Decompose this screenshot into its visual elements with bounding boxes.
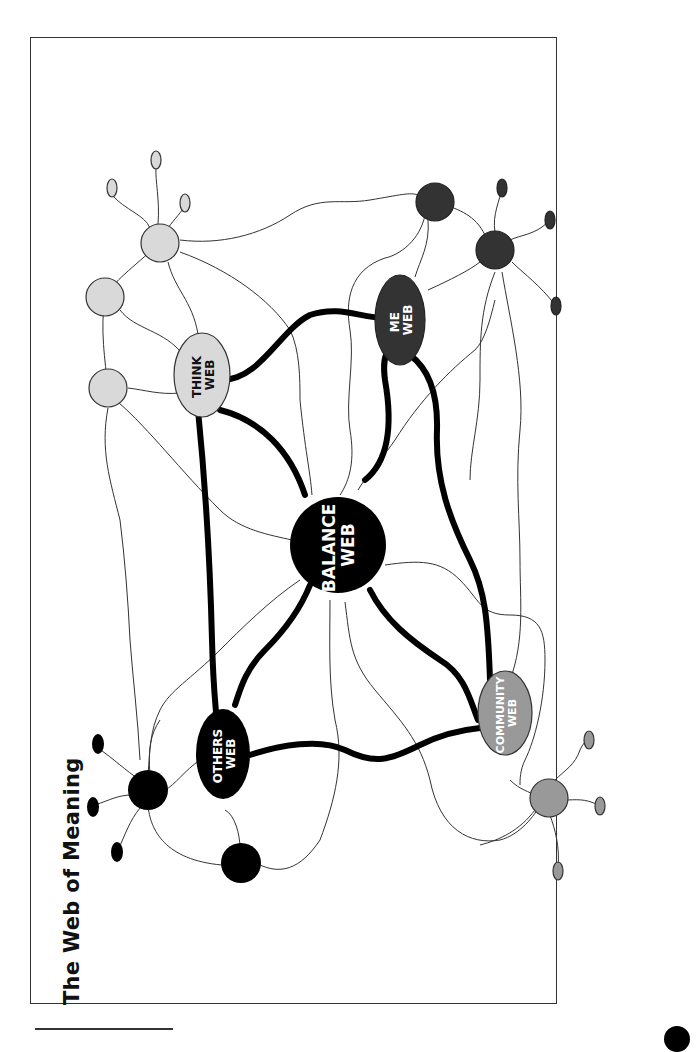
think-node bbox=[89, 369, 127, 407]
think-hub-node bbox=[141, 224, 179, 262]
me-cluster bbox=[375, 179, 561, 365]
page-title: The Web of Meaning bbox=[60, 757, 84, 1005]
me-satellite bbox=[545, 211, 555, 229]
page-marker-dot bbox=[664, 1026, 690, 1052]
community-hub-node bbox=[530, 779, 568, 817]
others-satellite bbox=[92, 734, 104, 754]
think-satellite bbox=[107, 179, 117, 197]
me-satellite bbox=[497, 179, 507, 197]
me-label: ME WEB bbox=[388, 305, 415, 336]
community-satellite bbox=[553, 862, 563, 880]
think-satellite bbox=[180, 194, 190, 212]
community-satellite bbox=[595, 797, 605, 815]
think-satellite bbox=[151, 151, 161, 169]
footer-rule bbox=[35, 1028, 173, 1030]
think-node bbox=[86, 278, 124, 316]
me-hub-node bbox=[476, 231, 514, 269]
others-satellite bbox=[111, 842, 123, 862]
others-hub-node bbox=[128, 770, 168, 810]
others-satellite bbox=[87, 797, 99, 817]
community-satellite bbox=[584, 731, 594, 749]
me-node bbox=[416, 183, 454, 221]
me-satellite bbox=[551, 297, 561, 315]
others-node bbox=[221, 843, 261, 883]
others-cluster bbox=[87, 709, 261, 883]
